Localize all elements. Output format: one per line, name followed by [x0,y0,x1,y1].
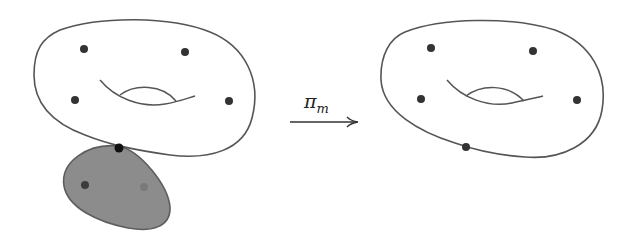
right-marked-point-1 [427,44,435,52]
left-torus-handle-upper [120,87,176,101]
node-point [115,144,124,153]
left-curve-group [34,20,255,230]
left-marked-point-4 [225,97,233,105]
bubble-marked-point-2 [140,183,148,191]
left-torus-handle-lower [100,80,195,105]
right-marked-point-2 [529,47,537,55]
left-marked-point-1 [80,45,88,53]
right-marked-point-4 [573,96,581,104]
right-torus-outline [381,20,603,157]
right-curve-group [381,20,603,157]
stabilization-map-diagram: πm [0,0,634,237]
bubble-component [64,146,170,230]
right-torus-handle-lower [447,80,543,104]
right-marked-point-3 [417,95,425,103]
left-marked-point-3 [71,96,79,104]
bubble-marked-point-1 [81,181,89,189]
left-marked-point-2 [181,48,189,56]
arrow-label: πm [303,90,329,116]
projection-arrow: πm [290,90,358,127]
right-marked-point-5 [462,143,470,151]
